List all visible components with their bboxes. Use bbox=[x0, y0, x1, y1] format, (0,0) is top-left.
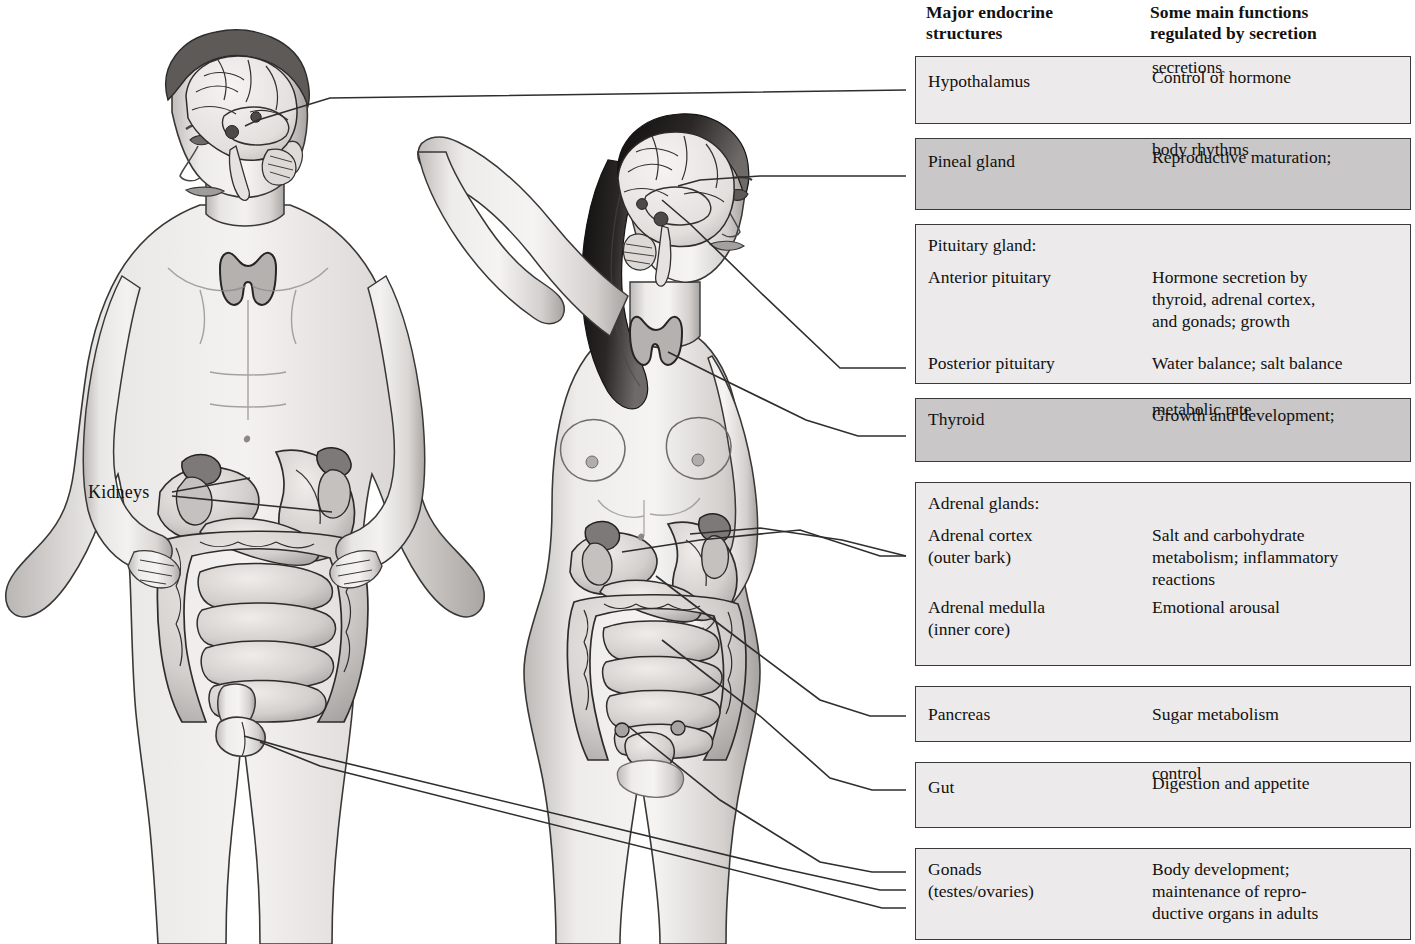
function-label: metabolism; inflammatory bbox=[1152, 547, 1404, 568]
female-nipple-left bbox=[586, 456, 598, 468]
function-label: Salt and carbohydrate bbox=[1152, 525, 1404, 546]
female-ovary-left bbox=[615, 723, 629, 737]
table-header-functions-line1: Some main functions bbox=[1150, 2, 1412, 23]
female-nipple-right bbox=[692, 454, 704, 466]
table-header-functions: Some main functions regulated by secreti… bbox=[1150, 2, 1412, 43]
anatomical-illustration bbox=[0, 0, 910, 944]
function-label: Sugar metabolism bbox=[1152, 704, 1404, 725]
function-label: metabolic rate bbox=[1152, 399, 1404, 420]
table-row-pancreas[interactable]: PancreasSugar metabolism bbox=[915, 686, 1411, 742]
endocrine-diagram: Kidneys Major endocrine structures Some … bbox=[0, 0, 1415, 944]
function-label: Emotional arousal bbox=[1152, 597, 1404, 618]
table-row-gut[interactable]: GutDigestion and appetitecontrol bbox=[915, 762, 1411, 828]
function-label: reactions bbox=[1152, 569, 1404, 590]
table-header-structures: Major endocrine structures bbox=[926, 2, 1141, 43]
structure-label: Gut bbox=[928, 777, 1146, 798]
female-pituitary-marker bbox=[654, 212, 668, 226]
table-header-structures-line2: structures bbox=[926, 23, 1141, 44]
function-label: Water balance; salt balance bbox=[1152, 353, 1404, 374]
table-row-gonads[interactable]: Gonads(testes/ovaries)Body development;m… bbox=[915, 848, 1411, 940]
female-kidney-right bbox=[702, 536, 729, 579]
structure-label: (outer bark) bbox=[928, 547, 1146, 568]
table-header-functions-line2: regulated by secretion bbox=[1150, 23, 1412, 44]
structure-label: Pineal gland bbox=[928, 151, 1146, 172]
male-kidney-right bbox=[318, 470, 350, 518]
structure-label: Gonads bbox=[928, 859, 1146, 880]
female-figure bbox=[418, 114, 760, 944]
function-label: ductive organs in adults bbox=[1152, 903, 1404, 924]
female-ovary-right bbox=[671, 721, 685, 735]
structure-label: Adrenal cortex bbox=[928, 525, 1146, 546]
table-row-pineal-gland[interactable]: Pineal glandReproductive maturation;body… bbox=[915, 138, 1411, 210]
function-label: Hormone secretion by bbox=[1152, 267, 1404, 288]
structure-label: Adrenal medulla bbox=[928, 597, 1146, 618]
female-cerebellum bbox=[623, 234, 656, 270]
male-pituitary-marker bbox=[251, 112, 261, 122]
function-label: maintenance of repro- bbox=[1152, 881, 1404, 902]
structure-label: Thyroid bbox=[928, 409, 1146, 430]
table-row-hypothalamus[interactable]: HypothalamusControl of hormonesecretions bbox=[915, 56, 1411, 124]
table-header-structures-line1: Major endocrine bbox=[926, 2, 1141, 23]
table-row-pituitary-gland[interactable]: Pituitary gland:Anterior pituitaryPoster… bbox=[915, 224, 1411, 384]
function-label: secretions bbox=[1152, 57, 1404, 78]
male-hypothalamus-marker bbox=[226, 126, 239, 139]
function-label: and gonads; growth bbox=[1152, 311, 1404, 332]
structure-label: (inner core) bbox=[928, 619, 1146, 640]
female-pineal-marker bbox=[637, 199, 648, 210]
table-row-adrenal-glands[interactable]: Adrenal glands:Adrenal cortex(outer bark… bbox=[915, 482, 1411, 666]
structure-label: Anterior pituitary bbox=[928, 267, 1146, 288]
function-label: control bbox=[1152, 763, 1404, 784]
kidneys-label: Kidneys bbox=[88, 482, 149, 503]
function-label: thyroid, adrenal cortex, bbox=[1152, 289, 1404, 310]
male-testes bbox=[216, 717, 265, 756]
structure-label: Pancreas bbox=[928, 704, 1146, 725]
structure-label: Adrenal glands: bbox=[928, 493, 1146, 514]
male-figure bbox=[6, 30, 484, 944]
structure-label: (testes/ovaries) bbox=[928, 881, 1146, 902]
function-label: Body development; bbox=[1152, 859, 1404, 880]
structure-label: Posterior pituitary bbox=[928, 353, 1146, 374]
endocrine-table: Major endocrine structures Some main fun… bbox=[912, 0, 1415, 944]
male-kidney-left bbox=[177, 477, 213, 525]
structure-label: Hypothalamus bbox=[928, 71, 1146, 92]
structure-label: Pituitary gland: bbox=[928, 235, 1146, 256]
table-row-thyroid[interactable]: ThyroidGrowth and development;metabolic … bbox=[915, 398, 1411, 462]
function-label: body rhythms bbox=[1152, 139, 1404, 160]
